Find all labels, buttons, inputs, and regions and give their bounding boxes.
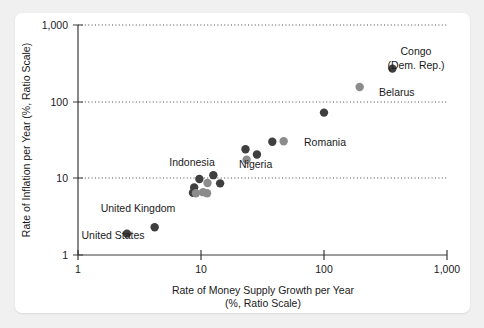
congo-label-line1: Congo <box>401 45 432 57</box>
data-point <box>192 189 200 197</box>
data-point-nigeria <box>241 145 249 153</box>
x-tick-label-100: 100 <box>315 263 333 275</box>
y-axis-title: Rate of Inflation per Year (%, Ratio Sca… <box>20 43 32 237</box>
scatter-chart: 1,000 100 10 1 1 10 100 1,000 <box>15 13 470 313</box>
x-axis-ticks: 1 10 100 1,000 <box>75 250 460 275</box>
x-tick-label-1000: 1,000 <box>434 263 460 275</box>
data-point-united-kingdom <box>150 223 158 231</box>
data-point-romania <box>279 137 287 145</box>
y-tick-label-1000: 1,000 <box>42 19 68 31</box>
chart-plot-area: 1,000 100 10 1 1 10 100 1,000 <box>15 13 470 313</box>
screenshot-root: 1,000 100 10 1 1 10 100 1,000 <box>0 0 484 328</box>
united-kingdom-label: United Kingdom <box>101 202 176 214</box>
x-axis-subtitle: (%, Ratio Scale) <box>225 297 301 309</box>
belarus-label: Belarus <box>379 86 415 98</box>
chart-card: 1,000 100 10 1 1 10 100 1,000 <box>15 13 470 313</box>
x-axis-title: Rate of Money Supply Growth per Year <box>172 284 355 296</box>
data-point <box>209 171 217 179</box>
indonesia-label: Indonesia <box>169 156 215 168</box>
y-axis-ticks: 1,000 100 10 1 <box>42 19 83 261</box>
data-point <box>216 179 224 187</box>
x-tick-label-10: 10 <box>195 263 207 275</box>
data-point <box>203 189 211 197</box>
y-tick-label-100: 100 <box>50 96 68 108</box>
data-point <box>203 179 211 187</box>
nigeria-label: Nigeria <box>239 158 272 170</box>
x-tick-label-1: 1 <box>75 263 81 275</box>
data-point-indonesia <box>195 175 203 183</box>
united-states-label: United States <box>81 229 144 241</box>
data-point-belarus <box>355 83 363 91</box>
point-annotations: Congo (Dem. Rep.) Belarus Romania Nigeri… <box>81 45 444 241</box>
congo-label-line2: (Dem. Rep.) <box>387 59 444 71</box>
gridlines <box>78 25 447 178</box>
data-point <box>268 138 276 146</box>
y-tick-label-10: 10 <box>56 172 68 184</box>
y-tick-label-1: 1 <box>62 249 68 261</box>
romania-label: Romania <box>304 136 346 148</box>
data-point <box>320 108 328 116</box>
